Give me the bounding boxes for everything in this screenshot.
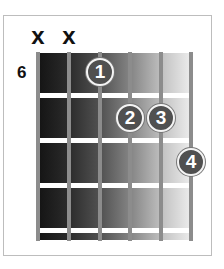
fret-line-2 bbox=[38, 138, 192, 143]
string-2 bbox=[159, 52, 163, 241]
mute-marker-string-5: x bbox=[62, 24, 75, 48]
string-1 bbox=[189, 52, 193, 241]
fret-line-3 bbox=[38, 183, 192, 188]
fret-line-1 bbox=[38, 93, 192, 98]
string-6 bbox=[36, 52, 40, 241]
finger-2-marker: 2 bbox=[116, 104, 144, 132]
fret-line-4 bbox=[38, 228, 192, 233]
finger-1-marker: 1 bbox=[86, 58, 114, 86]
string-5 bbox=[67, 52, 71, 241]
fretboard bbox=[38, 53, 192, 240]
finger-4-marker: 4 bbox=[177, 148, 205, 176]
finger-3-marker: 3 bbox=[147, 104, 175, 132]
mute-marker-string-6: x bbox=[31, 24, 44, 48]
start-fret-number: 6 bbox=[17, 63, 26, 83]
string-3 bbox=[128, 52, 132, 241]
